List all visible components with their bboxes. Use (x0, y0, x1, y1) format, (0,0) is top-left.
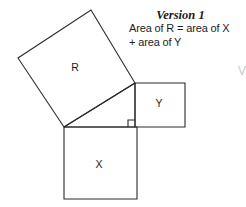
right-angle-marker (128, 120, 135, 127)
caption-line-2: + area of Y (129, 36, 246, 50)
caption-title: Version 1 (129, 8, 246, 22)
caption-block: Version 1 Area of R = area of X + area o… (129, 8, 246, 49)
label-square-x: X (95, 158, 102, 170)
cropped-edge-text-fragment: V (238, 64, 246, 78)
diagram-canvas: R X Y Version 1 Area of R = area of X + … (0, 0, 246, 207)
label-square-y: Y (155, 97, 162, 109)
label-square-r: R (71, 61, 79, 73)
caption-line-1: Area of R = area of X (129, 22, 246, 36)
triangle-hypotenuse (64, 83, 135, 127)
